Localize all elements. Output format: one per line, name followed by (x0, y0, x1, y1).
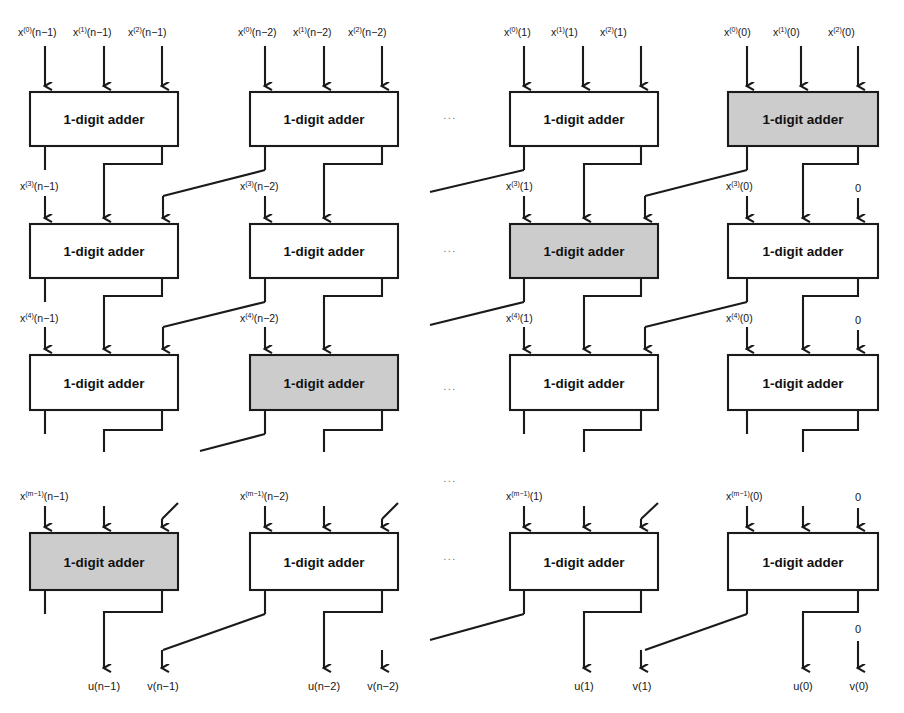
stage-label-x3-n-1: x(3)(n−1) (20, 180, 59, 192)
adder-column-n-2: x(4)(n−2) 1-digit adder (200, 312, 398, 452)
adder-column-1: x(m−1)(1) 1-digit adder u(1) v(1) (430, 490, 658, 692)
adder-block-label: 1-digit adder (283, 244, 365, 259)
carry-wire (104, 278, 162, 327)
adder-block-label: 1-digit adder (762, 376, 844, 391)
carry-wire (803, 146, 858, 196)
stage-label-xm1-1: x(m−1)(1) (506, 490, 543, 502)
adder-column-1: x(4)(1) 1-digit adder (506, 312, 658, 452)
diagonal-sum-wire (430, 614, 524, 640)
carry-wire (324, 590, 382, 650)
zero-label-row4-out: 0 (855, 623, 861, 635)
adder-column-0: x(0)(0) x(1)(0) x(2)(0) 1-digit adder (645, 26, 878, 218)
adder-block-label: 1-digit adder (543, 376, 625, 391)
adder-column-0: x(3)(0) 0 1-digit adder (645, 180, 878, 349)
stage-label-xm1-n-2: x(m−1)(n−2) (240, 490, 289, 502)
adder-column-1: x(0)(1) x(1)(1) x(2)(1) 1-digit adder (430, 26, 658, 218)
stage-label-xm1-0: x(m−1)(0) (726, 490, 763, 502)
adder-row-3: x(4)(n−1) 1-digit adder x(4)(n−2) 1-digi… (20, 312, 878, 484)
input-label-x2-n-1: x(2)(n−1) (128, 26, 167, 38)
adder-block-label: 1-digit adder (543, 244, 625, 259)
stage-label-xm1-n-1: x(m−1)(n−1) (20, 490, 69, 502)
carry-wire (324, 410, 382, 452)
zero-label-row2: 0 (855, 182, 861, 194)
input-label-x1-n-1: x(1)(n−1) (73, 26, 112, 38)
input-label-x1-0: x(1)(0) (773, 26, 800, 38)
diagonal-carry-in (162, 503, 178, 519)
input-label-x0-n-1: x(0)(n−1) (18, 26, 57, 38)
adder-block-label: 1-digit adder (283, 555, 365, 570)
stage-label-x4-n-1: x(4)(n−1) (20, 312, 59, 324)
carry-wire (324, 146, 382, 196)
adder-column-n-1: x(4)(n−1) 1-digit adder (20, 312, 178, 452)
carry-wire (584, 590, 641, 650)
carry-wire (324, 278, 382, 327)
zero-label-row3: 0 (855, 314, 861, 326)
carry-wire (104, 410, 162, 452)
adder-block-label: 1-digit adder (762, 244, 844, 259)
output-label-v: v(0) (850, 680, 869, 692)
output-label-v: v(n−2) (367, 680, 399, 692)
output-label-v: v(1) (633, 680, 652, 692)
ellipsis-vertical-gap: ... (443, 472, 457, 484)
input-label-x2-1: x(2)(1) (600, 26, 627, 38)
adder-block-label: 1-digit adder (543, 555, 625, 570)
ellipsis-row-3: ... (443, 380, 457, 392)
output-label-u: u(1) (574, 680, 594, 692)
adder-block-label: 1-digit adder (63, 244, 145, 259)
input-label-x1-1: x(1)(1) (551, 26, 578, 38)
adder-column-n-1: x(m−1)(n−1) 1-digit adder u(n−1) v(n−1) (20, 490, 179, 692)
carry-wire (104, 590, 162, 650)
adder-block-label: 1-digit adder (762, 112, 844, 127)
adder-column-n-2: x(3)(n−2) 1-digit adder (163, 180, 398, 349)
output-label-u: u(n−2) (308, 680, 340, 692)
ellipsis-row-4: ... (443, 550, 457, 562)
adder-column-n-2: x(0)(n−2) x(1)(n−2) x(2)(n−2) 1-digit ad… (163, 26, 398, 218)
diagonal-carry-in (641, 503, 658, 519)
diagonal-carry-in (382, 503, 398, 519)
adder-array-diagram: x(0)(n−1) x(1)(n−1) x(2)(n−1) 1-digit ad… (0, 0, 904, 713)
ellipsis-row-1: ... (443, 109, 457, 121)
diagonal-sum-wire (163, 614, 265, 650)
stage-label-x3-1: x(3)(1) (506, 180, 533, 192)
input-label-x2-n-2: x(2)(n−2) (348, 26, 387, 38)
diagonal-carry-wire (200, 434, 265, 451)
input-label-x2-0: x(2)(0) (828, 26, 855, 38)
adder-column-0: x(m−1)(0) 0 1-digit adder 0 u(0) v(0) (645, 490, 878, 692)
diagonal-sum-wire (645, 614, 747, 650)
input-label-x0-0: x(0)(0) (724, 26, 751, 38)
adder-column-n-2: x(m−1)(n−2) 1-digit adder u(n−2) v(n−2) (163, 490, 399, 692)
output-label-u: u(n−1) (88, 680, 120, 692)
adder-block-label: 1-digit adder (543, 112, 625, 127)
adder-row-4: x(m−1)(n−1) 1-digit adder u(n−1) v(n−1) … (20, 490, 878, 692)
carry-wire (803, 590, 858, 650)
input-label-x0-n-2: x(0)(n−2) (238, 26, 277, 38)
stage-label-x4-n-2: x(4)(n−2) (240, 312, 279, 324)
input-label-x0-1: x(0)(1) (504, 26, 531, 38)
adder-block-label: 1-digit adder (63, 376, 145, 391)
carry-wire (584, 410, 641, 452)
stage-label-x3-n-2: x(3)(n−2) (240, 180, 279, 192)
carry-wire (584, 146, 641, 196)
output-label-v: v(n−1) (147, 680, 179, 692)
carry-wire (803, 410, 858, 452)
stage-label-x4-1: x(4)(1) (506, 312, 533, 324)
stage-label-x4-0: x(4)(0) (726, 312, 753, 324)
carry-wire (584, 278, 641, 327)
adder-column-1: x(3)(1) 1-digit adder (430, 180, 658, 349)
output-label-u: u(0) (793, 680, 813, 692)
adder-block-label: 1-digit adder (283, 112, 365, 127)
adder-block-label: 1-digit adder (283, 376, 365, 391)
input-label-x1-n-2: x(1)(n−2) (293, 26, 332, 38)
carry-wire (803, 278, 858, 327)
ellipsis-row-2: ... (443, 242, 457, 254)
stage-label-x3-0: x(3)(0) (726, 180, 753, 192)
adder-block-label: 1-digit adder (762, 555, 844, 570)
adder-block-label: 1-digit adder (63, 112, 145, 127)
carry-wire (104, 146, 162, 196)
adder-block-label: 1-digit adder (63, 555, 145, 570)
zero-label-row4-in: 0 (855, 491, 861, 503)
